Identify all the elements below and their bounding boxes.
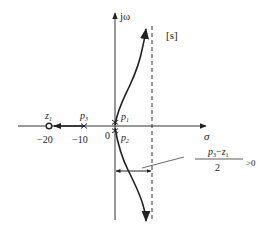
pole-p1-label: p1 [120, 111, 129, 123]
zero-z1-value: −20 [37, 134, 53, 145]
pole-p2-label: p2 [120, 132, 129, 144]
locus-branch-lower [115, 128, 146, 221]
s-plane-label: [s] [166, 29, 178, 41]
fraction-numerator: p3−z1 [207, 146, 229, 158]
zero-z1-label: z1 [44, 110, 52, 122]
pole-p3-value: −10 [72, 134, 88, 145]
real-axis-label: σ [204, 130, 210, 142]
pole-p3-label: p3 [79, 110, 88, 122]
annotation-leader-line [142, 157, 184, 168]
imag-axis-label: jω [119, 10, 130, 22]
locus-branch-upper [115, 29, 146, 125]
zero-z1-marker [46, 123, 52, 129]
fraction-condition: >0 [246, 158, 256, 168]
origin-label: 0 [105, 130, 110, 141]
asymptote-fraction: p3−z1 2 >0 [195, 146, 256, 173]
fraction-denominator: 2 [215, 162, 220, 173]
root-locus-diagram: jω σ [s] 0 z1 −20 p3 −10 p1 p2 p3−z1 2 >… [0, 0, 276, 236]
